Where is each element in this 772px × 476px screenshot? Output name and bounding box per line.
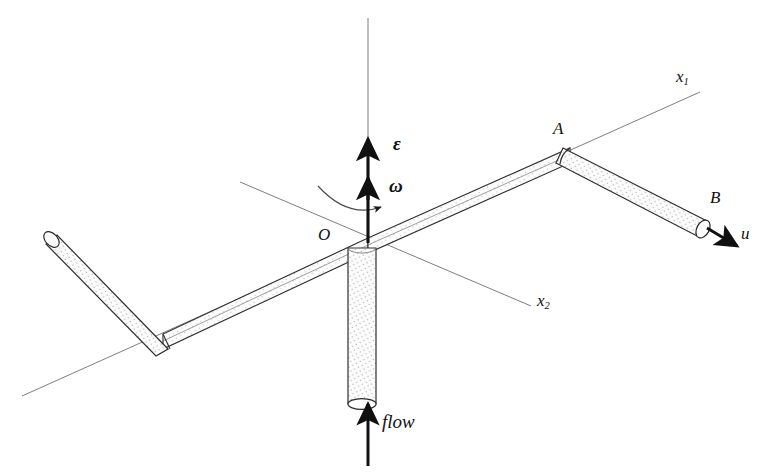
- label-origin: O: [318, 226, 330, 243]
- arm-left-body: [163, 238, 368, 349]
- axis-x1-base: x: [676, 67, 684, 86]
- label-axis-x1: x1: [676, 68, 689, 88]
- diagram-canvas: O A B x1 x2 ε ω u flow: [0, 0, 772, 476]
- arm-right-body: [368, 148, 570, 253]
- nozzle-left: [41, 229, 170, 356]
- label-axis-x2: x2: [537, 292, 550, 312]
- label-exit-velocity: u: [741, 225, 750, 242]
- nozzle-right-body: [556, 148, 707, 237]
- nozzle-left-body: [46, 235, 168, 356]
- rotation-arc-path: [318, 186, 381, 210]
- label-angular-acceleration: ε: [393, 134, 401, 153]
- label-inlet-flow: flow: [382, 412, 415, 431]
- supply-pipe-body: [348, 248, 376, 404]
- arm-right: [368, 148, 570, 253]
- axis-x1-subscript: 1: [684, 76, 689, 87]
- label-point-a: A: [553, 120, 563, 137]
- supply-pipe: [348, 248, 376, 409]
- label-angular-velocity: ω: [389, 176, 403, 195]
- exit-velocity-arrow: [707, 228, 737, 246]
- arm-left: [163, 238, 368, 349]
- nozzle-right: [556, 148, 713, 240]
- arm-left-midline: [163, 245, 368, 341]
- supply-pipe-inlet: [348, 399, 376, 410]
- arm-right-midline: [368, 155, 570, 245]
- axis-x2-base: x: [537, 291, 545, 310]
- rotation-arc-arrow: [318, 186, 381, 210]
- axis-x2-subscript: 2: [545, 300, 550, 311]
- sprinkler-diagram-svg: [0, 0, 772, 476]
- label-point-b: B: [710, 189, 720, 206]
